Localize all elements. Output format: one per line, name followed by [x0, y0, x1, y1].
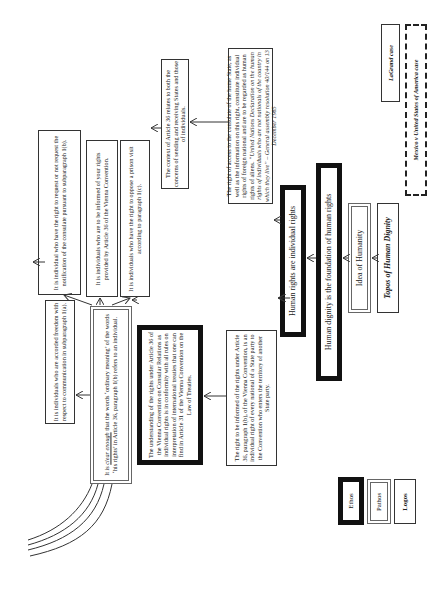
arrow-connectors: [0, 0, 447, 592]
